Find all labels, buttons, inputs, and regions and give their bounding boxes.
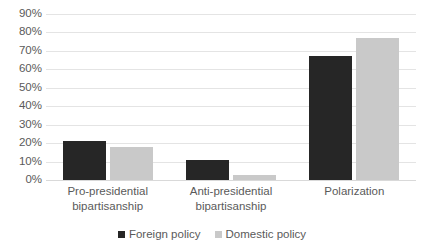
legend-item[interactable]: Foreign policy — [118, 228, 201, 240]
bar-chart: 0%10%20%30%40%50%60%70%80%90% Pro-presid… — [0, 0, 424, 252]
x-axis-category-label-line: bipartisanship — [46, 199, 169, 214]
legend-label: Domestic policy — [226, 228, 307, 240]
x-axis-category-label-line: Anti-presidential — [169, 184, 292, 199]
x-axis-category-labels: Pro-presidentialbipartisanshipAnti-presi… — [46, 184, 416, 224]
bar — [309, 56, 352, 180]
y-axis-tick-label: 20% — [0, 137, 42, 149]
y-axis: 0%10%20%30%40%50%60%70%80%90% — [0, 0, 42, 194]
x-axis-category-label-line: Pro-presidential — [46, 184, 169, 199]
bar — [186, 160, 229, 180]
y-axis-tick-label: 30% — [0, 119, 42, 131]
bar — [233, 175, 276, 180]
legend-item[interactable]: Domestic policy — [215, 228, 307, 240]
bar — [356, 38, 399, 180]
gridline — [46, 180, 416, 181]
gridline — [46, 32, 416, 33]
x-axis-category-label-line: bipartisanship — [169, 199, 292, 214]
plot-area — [46, 14, 416, 180]
y-axis-tick-label: 60% — [0, 63, 42, 75]
chart-legend: Foreign policyDomestic policy — [0, 228, 424, 240]
x-axis-category-label: Polarization — [293, 184, 416, 199]
x-axis-category-label: Anti-presidentialbipartisanship — [169, 184, 292, 214]
y-axis-tick-label: 80% — [0, 26, 42, 38]
y-axis-tick-label: 70% — [0, 45, 42, 57]
x-axis-category-label-line: Polarization — [293, 184, 416, 199]
legend-swatch-icon — [118, 231, 125, 238]
y-axis-tick-label: 50% — [0, 82, 42, 94]
legend-swatch-icon — [215, 231, 222, 238]
bar — [63, 141, 106, 180]
bar — [110, 147, 153, 180]
y-axis-tick-label: 90% — [0, 8, 42, 20]
y-axis-tick-label: 40% — [0, 100, 42, 112]
y-axis-tick-label: 0% — [0, 174, 42, 186]
x-axis-category-label: Pro-presidentialbipartisanship — [46, 184, 169, 214]
gridline — [46, 14, 416, 15]
legend-label: Foreign policy — [129, 228, 201, 240]
y-axis-tick-label: 10% — [0, 156, 42, 168]
